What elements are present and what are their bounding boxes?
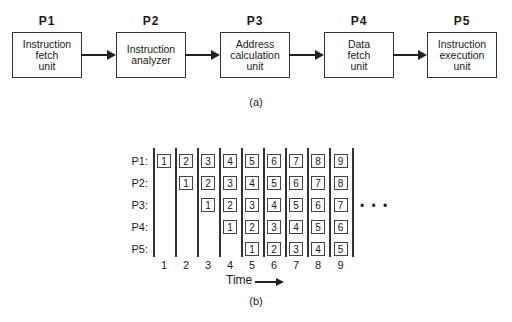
time-step-label: 1 bbox=[158, 259, 170, 271]
stage-box-p1: Instruction fetch unit bbox=[12, 32, 82, 78]
row-label: P5: bbox=[118, 243, 148, 255]
instruction-cell: 5 bbox=[289, 198, 303, 212]
instruction-cell: 7 bbox=[334, 198, 348, 212]
grid-divider bbox=[307, 148, 309, 257]
stage-label-p1: P1 bbox=[12, 14, 82, 28]
time-step-label: 7 bbox=[290, 259, 302, 271]
instruction-cell: 3 bbox=[201, 154, 215, 168]
instruction-cell: 8 bbox=[334, 176, 348, 190]
flow-arrow-icon bbox=[290, 54, 322, 56]
instruction-cell: 5 bbox=[267, 176, 281, 190]
instruction-cell: 3 bbox=[289, 242, 303, 256]
instruction-cell: 1 bbox=[157, 154, 171, 168]
grid-divider bbox=[285, 148, 287, 257]
instruction-cell: 2 bbox=[245, 220, 259, 234]
stage-box-text: Instruction execution unit bbox=[438, 39, 486, 72]
time-step-label: 5 bbox=[246, 259, 258, 271]
instruction-cell: 2 bbox=[267, 242, 281, 256]
stage-box-p4: Data fetch unit bbox=[324, 32, 394, 78]
caption-b: (b) bbox=[241, 295, 271, 307]
stage-box-text: Data fetch unit bbox=[348, 39, 371, 72]
time-step-label: 3 bbox=[202, 259, 214, 271]
flow-arrow-icon bbox=[394, 54, 425, 56]
stage-box-text: Instruction analyzer bbox=[127, 44, 175, 66]
time-arrow-icon bbox=[255, 281, 282, 283]
instruction-cell: 1 bbox=[223, 220, 237, 234]
continuation-ellipsis: • • • bbox=[360, 199, 389, 213]
time-axis-label: Time bbox=[226, 273, 252, 287]
grid-divider bbox=[352, 148, 354, 257]
grid-divider bbox=[219, 148, 221, 257]
instruction-cell: 8 bbox=[311, 154, 325, 168]
instruction-cell: 5 bbox=[245, 154, 259, 168]
time-step-label: 8 bbox=[312, 259, 324, 271]
stage-box-p5: Instruction execution unit bbox=[427, 32, 497, 78]
stage-label-p2: P2 bbox=[116, 14, 186, 28]
grid-divider bbox=[197, 148, 199, 257]
flow-arrow-icon bbox=[82, 54, 114, 56]
instruction-cell: 2 bbox=[223, 198, 237, 212]
instruction-cell: 4 bbox=[289, 220, 303, 234]
instruction-cell: 9 bbox=[334, 154, 348, 168]
stage-box-text: Instruction fetch unit bbox=[23, 39, 71, 72]
row-label: P2: bbox=[118, 177, 148, 189]
grid-divider bbox=[175, 148, 177, 257]
stage-label-p4: P4 bbox=[324, 14, 394, 28]
instruction-cell: 5 bbox=[311, 220, 325, 234]
instruction-cell: 1 bbox=[245, 242, 259, 256]
instruction-cell: 4 bbox=[267, 198, 281, 212]
instruction-cell: 7 bbox=[289, 154, 303, 168]
grid-divider bbox=[263, 148, 265, 257]
instruction-cell: 6 bbox=[311, 198, 325, 212]
time-step-label: 6 bbox=[268, 259, 280, 271]
stage-box-text: Address calculation unit bbox=[230, 39, 280, 72]
stage-box-p2: Instruction analyzer bbox=[116, 32, 186, 78]
time-step-label: 9 bbox=[335, 259, 347, 271]
instruction-cell: 3 bbox=[245, 198, 259, 212]
stage-box-p3: Address calculation unit bbox=[220, 32, 290, 78]
instruction-cell: 5 bbox=[334, 242, 348, 256]
row-label: P4: bbox=[118, 221, 148, 233]
instruction-cell: 7 bbox=[311, 176, 325, 190]
instruction-cell: 6 bbox=[267, 154, 281, 168]
grid-divider bbox=[329, 148, 331, 257]
instruction-cell: 3 bbox=[267, 220, 281, 234]
instruction-cell: 6 bbox=[334, 220, 348, 234]
instruction-cell: 3 bbox=[223, 176, 237, 190]
instruction-cell: 2 bbox=[179, 154, 193, 168]
time-step-label: 2 bbox=[180, 259, 192, 271]
instruction-cell: 2 bbox=[201, 176, 215, 190]
stage-label-p5: P5 bbox=[427, 14, 497, 28]
instruction-cell: 4 bbox=[311, 242, 325, 256]
instruction-cell: 4 bbox=[223, 154, 237, 168]
caption-a: (a) bbox=[241, 96, 271, 108]
stage-label-p3: P3 bbox=[220, 14, 290, 28]
time-step-label: 4 bbox=[224, 259, 236, 271]
grid-divider bbox=[241, 148, 243, 257]
grid-divider bbox=[153, 148, 155, 257]
instruction-cell: 1 bbox=[201, 198, 215, 212]
row-label: P1: bbox=[118, 155, 148, 167]
instruction-cell: 1 bbox=[179, 176, 193, 190]
instruction-cell: 6 bbox=[289, 176, 303, 190]
flow-arrow-icon bbox=[186, 54, 218, 56]
row-label: P3: bbox=[118, 199, 148, 211]
instruction-cell: 4 bbox=[245, 176, 259, 190]
